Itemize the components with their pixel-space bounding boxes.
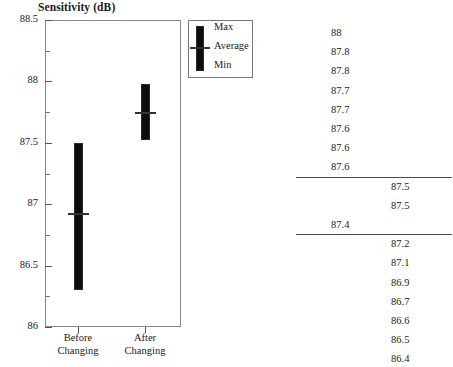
table-cell-right: 87.5 (391, 181, 433, 192)
table-cell-left: 87.6 (331, 123, 373, 134)
table-cell-right: 86.6 (391, 315, 433, 326)
table-cell-left: 87.6 (331, 161, 373, 172)
x-axis-label-line2: Changing (100, 344, 190, 357)
chart-title: Sensitivity (dB) (38, 1, 115, 13)
average-marker (68, 213, 89, 215)
plot-frame (45, 20, 181, 327)
screenshot-root: Sensitivity (dB) 88.58887.58786.586 Befo… (0, 0, 453, 367)
y-tick-label: 88 (4, 74, 38, 85)
y-tick-major (45, 266, 52, 267)
range-bar (74, 143, 83, 290)
y-tick-minor (45, 296, 50, 297)
y-tick-label: 88.5 (4, 13, 38, 24)
table-cell-right: 86.7 (391, 296, 433, 307)
legend-label-max: Max (214, 21, 233, 32)
y-tick-major (45, 204, 52, 205)
y-tick-major (45, 143, 52, 144)
y-tick-label: 86 (4, 320, 38, 331)
table-cell-left: 87.4 (331, 219, 373, 230)
y-tick-minor (45, 112, 50, 113)
y-tick-major (45, 81, 52, 82)
y-tick-major (45, 327, 52, 328)
table-cell-left: 87.6 (331, 142, 373, 153)
table-cell-left: 87.8 (331, 65, 373, 76)
table-cell-right: 87.2 (391, 238, 433, 249)
y-tick-minor (45, 51, 50, 52)
table-cell-right: 86.9 (391, 277, 433, 288)
table-rule (296, 234, 452, 235)
y-tick-label: 86.5 (4, 259, 38, 270)
y-tick-label: 87 (4, 197, 38, 208)
x-axis-label-line1: After (100, 331, 190, 344)
table-cell-left: 87.7 (331, 104, 373, 115)
table-cell-left: 87.8 (331, 46, 373, 57)
table-cell-right: 86.4 (391, 353, 433, 364)
table-cell-left: 88 (331, 27, 373, 38)
table-cell-right: 86.5 (391, 334, 433, 345)
x-axis-label: AfterChanging (100, 331, 190, 357)
table-rule (296, 177, 452, 178)
legend-average-tick-icon (190, 47, 210, 49)
y-tick-major (45, 20, 52, 21)
legend-label-min: Min (214, 59, 232, 70)
data-table: 8887.887.887.787.787.687.687.687.587.587… (296, 20, 453, 360)
y-tick-label: 87.5 (4, 136, 38, 147)
y-tick-minor (45, 235, 50, 236)
legend-label-average: Average (214, 40, 249, 51)
table-cell-right: 87.5 (391, 200, 433, 211)
y-tick-minor (45, 174, 50, 175)
average-marker (135, 112, 156, 114)
table-cell-left: 87.7 (331, 85, 373, 96)
table-cell-right: 87.1 (391, 257, 433, 268)
